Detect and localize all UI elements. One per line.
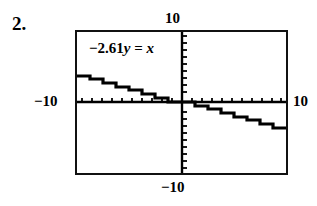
axis-label-ymax: 10 bbox=[165, 11, 180, 26]
equation-variable-x: x bbox=[147, 40, 155, 56]
equation-variable-y: y bbox=[124, 40, 131, 56]
axis-label-xmax: 10 bbox=[293, 94, 308, 109]
graph-figure: 2. bbox=[0, 0, 317, 206]
equation-coefficient: −2.61 bbox=[89, 40, 124, 56]
equation-equals: = bbox=[134, 40, 143, 56]
problem-number: 2. bbox=[12, 14, 26, 33]
equation-annotation: −2.61y = x bbox=[89, 41, 154, 56]
axis-label-xmin: −10 bbox=[34, 94, 58, 109]
calculator-screen: −2.61y = x bbox=[75, 30, 288, 175]
axis-label-ymin: −10 bbox=[161, 180, 185, 195]
